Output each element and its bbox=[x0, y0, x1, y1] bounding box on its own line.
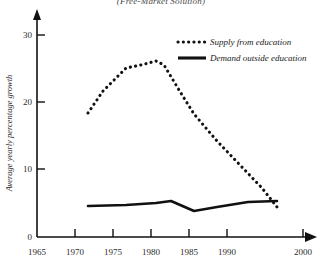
y-axis bbox=[33, 9, 41, 237]
y-axis-ticks bbox=[37, 35, 45, 169]
legend-label-demand: Demand outside education bbox=[209, 53, 307, 63]
x-tick-label-1985: 1985 bbox=[180, 247, 199, 257]
legend-item-supply[interactable]: Supply from education bbox=[178, 37, 292, 47]
legend-item-demand[interactable]: Demand outside education bbox=[178, 53, 307, 63]
chart-plot-area: 30 20 10 0 1965 1970 1975 1980 1985 1990… bbox=[0, 0, 322, 265]
legend-label-supply: Supply from education bbox=[210, 37, 292, 47]
y-axis-title: Average yearly percentage growth bbox=[4, 75, 14, 193]
x-tick-label-1980: 1980 bbox=[142, 247, 161, 257]
y-tick-label-10: 10 bbox=[23, 164, 33, 174]
chart-legend: Supply from education Demand outside edu… bbox=[178, 37, 307, 63]
x-tick-label-1965: 1965 bbox=[28, 247, 47, 257]
y-axis-arrowhead bbox=[33, 9, 41, 20]
series-supply-from-education bbox=[88, 61, 277, 207]
x-axis-ticks bbox=[75, 229, 303, 237]
x-axis-arrowhead bbox=[305, 232, 317, 242]
chart-figure: (Free-Market Solution) 30 20 10 0 bbox=[0, 0, 322, 265]
x-tick-label-1975: 1975 bbox=[104, 247, 123, 257]
x-tick-label-1990: 1990 bbox=[218, 247, 237, 257]
series-demand-outside-education bbox=[88, 201, 277, 211]
y-tick-label-30: 30 bbox=[23, 30, 33, 40]
x-tick-label-2000: 2000 bbox=[294, 247, 313, 257]
y-tick-label-20: 20 bbox=[23, 97, 33, 107]
x-axis bbox=[37, 232, 317, 242]
x-tick-label-1970: 1970 bbox=[66, 247, 85, 257]
y-tick-label-0: 0 bbox=[28, 232, 33, 242]
